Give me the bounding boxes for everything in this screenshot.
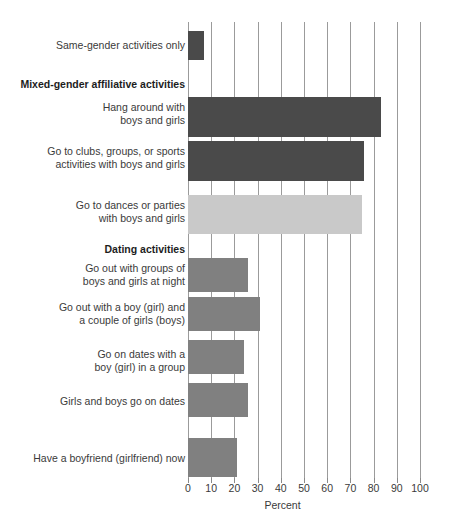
tick-label-80: 80 (368, 482, 380, 494)
bar-5 (188, 297, 260, 331)
gridline-60 (327, 22, 328, 478)
bar-3 (188, 195, 362, 234)
category-label-girls-boys-dates: Girls and boys go on dates (60, 395, 185, 408)
tick-label-70: 70 (345, 482, 357, 494)
bar-1 (188, 97, 381, 137)
tick-label-60: 60 (321, 482, 333, 494)
category-label-go-out-couple: Go out with a boy (girl) and a couple of… (59, 301, 185, 326)
bar-7 (188, 383, 248, 417)
tick-label-20: 20 (229, 482, 241, 494)
tick-label-30: 30 (252, 482, 264, 494)
gridline-30 (258, 22, 259, 478)
category-label-hang-around: Hang around with boys and girls (103, 101, 185, 126)
tick-label-10: 10 (205, 482, 217, 494)
category-label-have-boyfriend: Have a boyfriend (girlfriend) now (33, 452, 185, 465)
gridline-40 (281, 22, 282, 478)
section-heading-mixed-gender: Mixed-gender affiliative activities (20, 78, 185, 91)
tick-label-40: 40 (275, 482, 287, 494)
bar-8 (188, 438, 237, 477)
section-heading-dating: Dating activities (104, 243, 185, 256)
x-axis-title: Percent (0, 499, 453, 511)
gridline-100 (420, 22, 421, 478)
category-label-same-gender: Same-gender activities only (56, 39, 185, 52)
bar-chart: Same-gender activities only Mixed-gender… (0, 0, 453, 531)
category-label-clubs-groups-sports: Go to clubs, groups, or sports activitie… (47, 145, 185, 170)
tick-label-90: 90 (391, 482, 403, 494)
category-label-dances-parties: Go to dances or parties with boys and gi… (76, 199, 185, 224)
plot-area (188, 22, 420, 478)
category-label-dates-in-group: Go on dates with a boy (girl) in a group (95, 348, 185, 373)
bar-6 (188, 340, 244, 374)
gridline-90 (397, 22, 398, 478)
x-axis-title-text: Percent (264, 499, 300, 511)
bar-4 (188, 258, 248, 292)
bar-0 (188, 31, 204, 60)
category-label-go-out-groups-night: Go out with groups of boys and girls at … (83, 262, 185, 287)
tick-label-50: 50 (298, 482, 310, 494)
tick-label-0: 0 (185, 482, 191, 494)
gridline-50 (304, 22, 305, 478)
gridline-80 (374, 22, 375, 478)
bar-2 (188, 141, 364, 181)
gridline-70 (350, 22, 351, 478)
tick-label-100: 100 (411, 482, 429, 494)
